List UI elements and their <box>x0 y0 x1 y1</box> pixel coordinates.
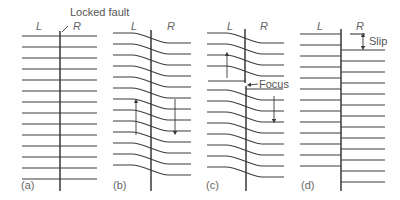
panel-d-lines <box>300 29 385 191</box>
locked-fault-label: Locked fault <box>70 7 129 18</box>
panel-b-right-label: R <box>167 21 175 32</box>
elastic-rebound-diagram: Locked fault L R (a) L R (b) L R Focus (… <box>0 0 400 200</box>
focus-pointer <box>249 84 258 85</box>
panel-c-lines <box>207 29 284 191</box>
slip-label: Slip <box>369 36 387 47</box>
diagram-canvas <box>0 0 400 200</box>
locked-fault-pointer <box>62 26 68 32</box>
panel-b-label: (b) <box>113 180 126 191</box>
panel-a-lines <box>22 26 97 191</box>
panel-a-label: (a) <box>21 180 34 191</box>
panel-d-label: (d) <box>301 180 314 191</box>
panel-b-lines <box>113 30 191 191</box>
panel-b-left-label: L <box>131 21 137 32</box>
strata-b <box>113 33 191 175</box>
panel-c-right-label: R <box>260 21 268 32</box>
panel-a-left-label: L <box>36 21 42 32</box>
panel-c-label: (c) <box>206 180 219 191</box>
panel-d-left-label: L <box>317 21 323 32</box>
panel-c-left-label: L <box>227 21 233 32</box>
panel-d-right-label: R <box>356 21 364 32</box>
strata-d-left <box>300 34 341 166</box>
focus-label: Focus <box>259 79 289 90</box>
panel-a-right-label: R <box>73 21 81 32</box>
strata-d-right <box>341 34 385 182</box>
